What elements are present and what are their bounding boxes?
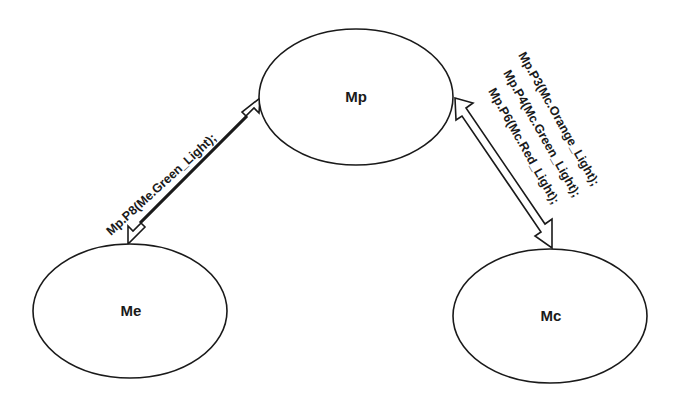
node-me-label: Me (121, 302, 142, 319)
edge-label-me-mp: Mp.P8(Me.Green_Light); (104, 131, 219, 238)
diagram-canvas: Mp Me Mc Mp.P8(Me.Green_Light); Mp.P3(Mc… (0, 0, 681, 408)
node-mc: Mc (453, 249, 647, 383)
node-mc-label: Mc (541, 307, 562, 324)
node-mp-label: Mp (345, 88, 367, 105)
node-me: Me (33, 244, 227, 378)
node-mp: Mp (259, 29, 453, 165)
arrow-me-mp (128, 98, 260, 244)
